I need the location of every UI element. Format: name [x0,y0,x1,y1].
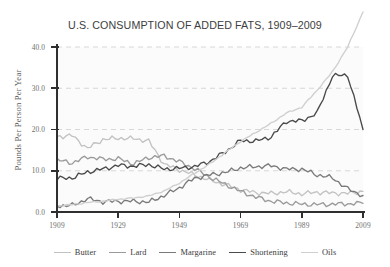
legend-label: Butter [75,248,97,257]
x-tick-label: 1949 [172,221,188,230]
x-tick-label: 1989 [294,221,310,230]
y-tick-label: 40.0 [32,43,45,52]
legend-item-oils[interactable]: Oils [301,248,336,257]
series-canvas [57,47,363,212]
series-line-shortening [57,73,363,180]
chart-title: U.S. CONSUMPTION OF ADDED FATS, 1909–200… [14,19,377,31]
y-tick-label: 10.0 [32,166,45,175]
legend-label: Oils [322,248,336,257]
x-tick-mark [56,211,58,218]
x-tick-label: 2009 [355,221,371,230]
legend-swatch-oils-icon [301,252,318,253]
legend-label: Shortening [250,248,288,257]
legend-item-margarine[interactable]: Margarine [159,248,216,257]
legend-item-butter[interactable]: Butter [54,248,97,257]
legend-label: Margarine [180,248,216,257]
legend-swatch-margarine-icon [159,252,176,253]
y-tick-label: 20.0 [32,125,45,134]
x-tick-label: 1929 [110,221,126,230]
x-tick-mark [117,211,119,218]
legend-swatch-lard-icon [109,252,126,253]
y-tick-mark [51,170,59,172]
series-line-butter [57,134,363,196]
chart-container: U.S. CONSUMPTION OF ADDED FATS, 1909–200… [0,0,390,267]
x-tick-label: 1909 [49,221,65,230]
legend-item-lard[interactable]: Lard [109,248,146,257]
x-axis-spine [56,211,365,213]
y-tick-mark [51,87,59,89]
x-tick-mark [301,211,303,218]
y-tick-label: 0.0 [35,208,45,217]
y-tick-mark [51,211,59,213]
x-tick-mark [240,211,242,218]
chart-legend: ButterLardMargarineShorteningOils [0,248,390,257]
x-tick-mark [179,211,181,218]
legend-swatch-shortening-icon [229,252,246,253]
plot-area [57,47,363,212]
y-axis-label: Pounds Per Person Per Year [13,45,23,195]
x-tick-label: 1969 [233,221,249,230]
legend-item-shortening[interactable]: Shortening [229,248,288,257]
y-tick-mark [51,46,59,48]
x-tick-mark [362,211,364,218]
y-tick-label: 30.0 [32,84,45,93]
legend-swatch-butter-icon [54,252,71,253]
y-tick-mark [51,129,59,131]
legend-label: Lard [130,248,146,257]
